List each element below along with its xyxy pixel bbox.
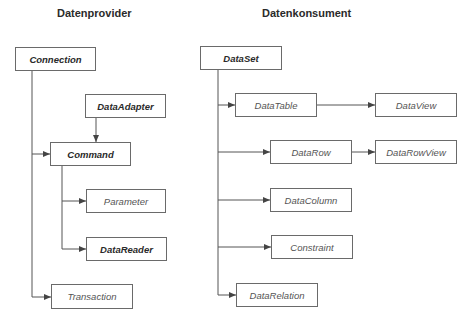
data-adapter-node: DataAdapter [85, 94, 166, 118]
data-row-node: DataRow [270, 140, 352, 164]
parameter-node: Parameter [86, 189, 166, 213]
data-view-node: DataView [375, 93, 457, 117]
data-reader-node: DataReader [86, 237, 167, 261]
data-relation-node: DataRelation [236, 283, 318, 307]
data-column-node: DataColumn [270, 188, 352, 212]
data-table-node: DataTable [235, 93, 317, 117]
data-set-node: DataSet [200, 46, 282, 70]
command-node: Command [50, 142, 131, 166]
connection-node: Connection [15, 47, 96, 71]
constraint-node: Constraint [271, 235, 353, 259]
transaction-node: Transaction [51, 284, 133, 309]
data-row-view-node: DataRowView [375, 140, 457, 164]
